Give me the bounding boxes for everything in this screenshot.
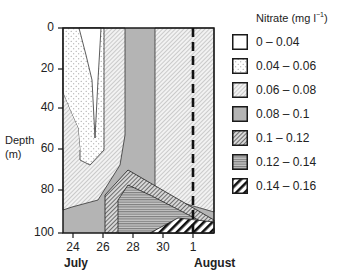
legend-item: 0 – 0.04	[232, 33, 299, 51]
legend-label: 0.14 – 0.16	[256, 179, 316, 193]
legend-title-superscript: −1	[316, 11, 324, 18]
legend-swatch-dense-hatch	[232, 130, 248, 146]
legend-swatch-fine-hatch	[232, 82, 248, 98]
legend-title-text: Nitrate (mg l	[256, 12, 316, 24]
legend-item: 0.1 – 0.12	[232, 129, 309, 147]
y-axis-label-line1: Depth	[5, 133, 34, 147]
month-label-july: July	[64, 256, 88, 270]
y-tick-label: 80	[30, 182, 54, 196]
legend-item: 0.14 – 0.16	[232, 177, 316, 195]
legend-item: 0.08 – 0.1	[232, 105, 309, 123]
legend-item: 0.04 – 0.06	[232, 57, 316, 75]
x-tick-label: 28	[121, 240, 145, 254]
legend-item: 0.12 – 0.14	[232, 153, 316, 171]
x-tick-label: 1	[181, 240, 205, 254]
month-label-august: August	[194, 256, 235, 270]
y-axis-label-line2: (m)	[5, 147, 34, 161]
legend-label: 0 – 0.04	[256, 35, 299, 49]
y-axis-label: Depth (m)	[5, 133, 34, 161]
x-tick-label: 26	[91, 240, 115, 254]
region-0.06-0.08-right	[155, 28, 214, 212]
legend-title: Nitrate (mg l−1)	[256, 11, 328, 24]
legend-swatch-white	[232, 34, 248, 50]
legend-item: 0.06 – 0.08	[232, 81, 316, 99]
y-tick-label: 100	[30, 225, 54, 239]
legend-label: 0.06 – 0.08	[256, 83, 316, 97]
legend-label: 0.1 – 0.12	[256, 131, 309, 145]
y-tick-label: 40	[30, 100, 54, 114]
legend-label: 0.04 – 0.06	[256, 59, 316, 73]
legend-label: 0.08 – 0.1	[256, 107, 309, 121]
x-tick-label: 24	[61, 240, 85, 254]
y-tick-label: 20	[30, 61, 54, 75]
y-tick-label: 0	[30, 20, 54, 34]
legend-swatch-horizontal-lines	[232, 154, 248, 170]
legend-swatch-bold-stripes	[232, 178, 248, 194]
legend-swatch-dotted	[232, 58, 248, 74]
x-tick-label: 30	[151, 240, 175, 254]
legend-swatch-grey	[232, 106, 248, 122]
legend-title-close: )	[324, 12, 328, 24]
legend-label: 0.12 – 0.14	[256, 155, 316, 169]
